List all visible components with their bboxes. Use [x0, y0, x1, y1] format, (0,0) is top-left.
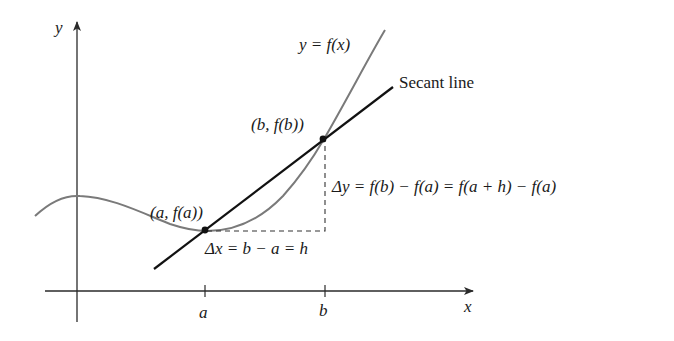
function-curve [35, 30, 385, 231]
point-a-label: (a, f(a)) [150, 203, 203, 222]
curve-label: y = f(x) [297, 35, 350, 54]
y-axis-label: y [53, 18, 63, 37]
delta-guides [207, 141, 325, 231]
point-b [320, 136, 327, 143]
point-b-label: (b, f(b)) [251, 115, 304, 134]
delta-y-label: Δy = f(b) − f(a) = f(a + h) − f(a) [331, 177, 556, 196]
secant-line-diagram: y x a b y = f(x) Secant line (b, f(b)) (… [0, 0, 674, 341]
x-axis-label: x [463, 297, 472, 316]
delta-x-label: Δx = b − a = h [204, 239, 308, 258]
tick-label-a: a [199, 303, 208, 322]
secant-label: Secant line [399, 73, 474, 92]
point-a [202, 227, 209, 234]
tick-label-b: b [319, 301, 328, 320]
curve-label-text: y = f(x) [297, 35, 350, 54]
